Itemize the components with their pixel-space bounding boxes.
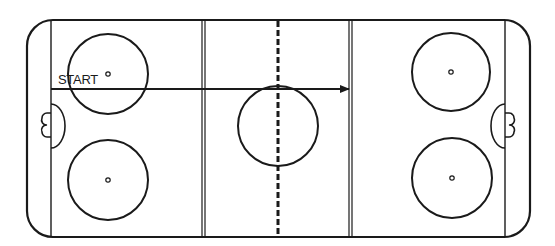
goal-net-left bbox=[42, 113, 51, 137]
faceoff-dot-bottom-right bbox=[450, 176, 454, 180]
goal-net-right bbox=[505, 113, 514, 137]
faceoff-dot-top-left bbox=[106, 72, 110, 76]
faceoff-circle-bottom-right bbox=[412, 138, 492, 218]
hockey-rink-diagram: START bbox=[0, 0, 555, 246]
faceoff-circle-bottom-left bbox=[68, 140, 148, 220]
blue-line-right bbox=[349, 20, 352, 237]
faceoff-circle-top-right bbox=[412, 33, 490, 111]
blue-line-left bbox=[202, 20, 205, 237]
faceoff-dot-bottom-left bbox=[106, 178, 110, 182]
faceoff-dot-top-right bbox=[449, 70, 453, 74]
start-label: START bbox=[58, 72, 98, 87]
goal-crease-right bbox=[491, 104, 505, 148]
goal-crease-left bbox=[51, 104, 65, 148]
